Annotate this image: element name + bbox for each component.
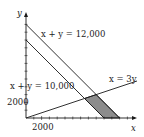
x-axis-arrow-icon — [132, 116, 137, 120]
x-axis — [26, 116, 137, 120]
label-x-equals-3y: x = 3y — [109, 74, 137, 84]
y-axis-arrow-icon — [24, 12, 28, 17]
y-tick-label: 2000 — [7, 97, 29, 107]
line-x-plus-y-10000 — [26, 40, 104, 118]
x-tick-label: 2000 — [32, 122, 54, 132]
label-x-plus-y-12000: x + y = 12,000 — [41, 29, 105, 39]
feasible-region-diagram: y x 2000 2000 x + y = 12,000 x + y = 10,… — [0, 0, 144, 137]
label-x-plus-y-10000: x + y = 10,000 — [10, 81, 74, 91]
y-axis-label: y — [16, 8, 22, 18]
shaded-region — [85, 95, 120, 118]
x-axis-label: x — [131, 123, 136, 133]
